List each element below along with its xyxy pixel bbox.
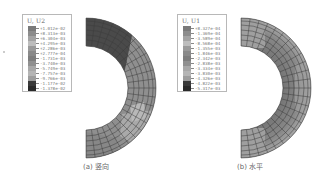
caption-b: (b) 水平	[237, 161, 263, 171]
legend-tick	[191, 48, 194, 49]
legend-tick	[191, 38, 194, 39]
legend-swatch	[183, 86, 191, 91]
legend-tick	[191, 63, 194, 64]
legend-value: -1.378e-02	[40, 86, 65, 91]
legend-title-a: U, U2	[27, 17, 45, 24]
legend-tick	[36, 33, 39, 34]
panel-b: U, U1 +8.327e-04-1.369e-04-3.589e-04-8.5…	[155, 0, 320, 184]
legend-title-b: U, U1	[182, 17, 200, 24]
legend-tick	[191, 68, 194, 69]
legend-tick	[36, 28, 39, 29]
legend-tick	[191, 53, 194, 54]
caption-a: (a) 竖向	[83, 161, 109, 171]
half-ring-contour-b	[235, 14, 320, 162]
legend-tick	[36, 63, 39, 64]
legend-tick	[191, 43, 194, 44]
legend-row: -5.317e-03	[183, 86, 225, 91]
legend-tick	[36, 68, 39, 69]
half-ring-contour-a	[80, 14, 165, 162]
legend-tick	[36, 73, 39, 74]
legend-box-a: U, U2 +1.012e-02+8.313e-03+6.304e-03+4.2…	[22, 14, 72, 92]
legend-tick	[36, 78, 39, 79]
legend-tick	[36, 48, 39, 49]
legend-swatch	[28, 86, 36, 91]
legend-tick	[36, 58, 39, 59]
panel-a: U, U2 +1.012e-02+8.313e-03+6.304e-03+4.2…	[0, 0, 165, 184]
legend-tick	[36, 53, 39, 54]
legend-rows-b: +8.327e-04-1.369e-04-3.589e-04-8.568e-04…	[183, 26, 225, 91]
legend-tick	[191, 58, 194, 59]
legend-tick	[36, 88, 39, 89]
legend-tick	[191, 83, 194, 84]
legend-tick	[191, 78, 194, 79]
legend-tick	[191, 33, 194, 34]
legend-tick	[191, 28, 194, 29]
legend-tick	[36, 38, 39, 39]
legend-rows-a: +1.012e-02+8.313e-03+6.304e-03+4.295e-03…	[28, 26, 70, 91]
legend-box-b: U, U1 +8.327e-04-1.369e-04-3.589e-04-8.5…	[177, 14, 227, 92]
legend-tick	[36, 43, 39, 44]
legend-tick	[191, 73, 194, 74]
legend-tick	[191, 88, 194, 89]
legend-value: -5.317e-03	[195, 86, 220, 91]
legend-row: -1.378e-02	[28, 86, 70, 91]
legend-tick	[36, 83, 39, 84]
